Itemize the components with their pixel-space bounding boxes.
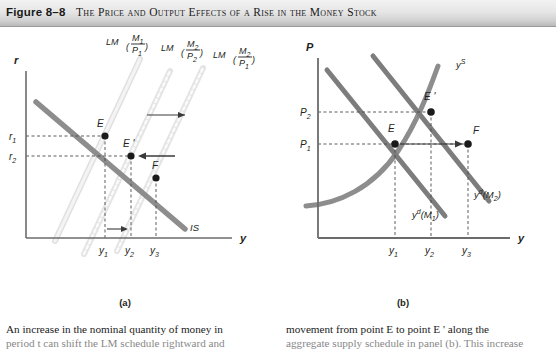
- point-E-prime: [427, 108, 435, 116]
- point-label-E: E: [388, 123, 395, 134]
- point-label-F: F: [152, 160, 159, 171]
- lm-curve-1-label: LM ( M1 P1 ): [106, 33, 148, 57]
- panel-a-caption: (a): [105, 297, 145, 308]
- panel-b-x-axis-label: y: [517, 232, 525, 244]
- output-expansion-arrow: [400, 141, 463, 148]
- panel-a-x-axis-label: y: [239, 232, 247, 244]
- panel-b-y-axis-label: P: [306, 41, 314, 53]
- svg-text:(: (: [126, 42, 130, 52]
- svg-text:P1: P1: [132, 45, 142, 57]
- svg-text:y3: y3: [149, 245, 159, 258]
- demand-curve-M2-label: yd(M2): [473, 188, 501, 202]
- is-curve-label: IS: [190, 222, 200, 233]
- panel-b-y-ticks: P2 P1: [300, 107, 311, 152]
- svg-text:): ): [144, 42, 148, 52]
- point-label-E: E: [97, 118, 104, 129]
- point-label-E-prime: E ': [424, 91, 436, 102]
- figure-title-bar: Figure 8–8 The Price and Output Effects …: [0, 0, 556, 27]
- svg-text:y2: y2: [424, 245, 434, 258]
- svg-text:P1: P1: [239, 58, 249, 70]
- panel-a-y-axis-label: r: [14, 54, 19, 66]
- svg-text:y1: y1: [388, 245, 398, 258]
- panel-a-chart: E E ' F r y r1 r2 y1 y2 y3 LM ( M1 P1 ) …: [0, 26, 278, 298]
- svg-text:P2: P2: [300, 107, 311, 120]
- point-F: [152, 174, 159, 181]
- svg-text:y2: y2: [124, 245, 134, 258]
- body-text-right-column: movement from point E to point E ' along…: [286, 322, 552, 350]
- lm-curve-3-label: LM ( M2 P1 ): [213, 46, 255, 70]
- svg-text:LM: LM: [213, 50, 226, 60]
- svg-text:y1: y1: [98, 245, 108, 258]
- panel-a-y-ticks: r1 r2: [9, 131, 16, 164]
- panel-a-x-ticks: y1 y2 y3: [98, 245, 159, 258]
- svg-text:): ): [251, 55, 255, 65]
- svg-text:M2: M2: [187, 39, 199, 51]
- body-line: An increase in the nominal quantity of m…: [6, 322, 268, 336]
- panel-b-x-ticks: y1 y2 y3: [388, 245, 471, 258]
- supply-curve-label: yS: [455, 58, 466, 70]
- body-line: period t can shift the LM schedule right…: [6, 336, 268, 350]
- lm-curve-2-label: LM ( M2 P2 ): [161, 39, 203, 63]
- svg-text:P2: P2: [187, 51, 197, 63]
- svg-text:LM: LM: [106, 37, 119, 47]
- svg-text:LM: LM: [161, 43, 174, 53]
- equilibrium-shift-arrow: [138, 153, 175, 160]
- point-E-prime: [127, 152, 134, 159]
- svg-text:M2: M2: [239, 46, 251, 58]
- panel-b-chart: E E ' F P y P2 P1 y1 y2 y3 yS yd(M1) yd(…: [278, 26, 556, 298]
- point-E: [391, 140, 399, 148]
- figure-title: The Price and Output Effects of a Rise i…: [76, 6, 377, 18]
- figure-number: Figure 8–8: [6, 6, 66, 18]
- svg-text:(: (: [233, 55, 237, 65]
- point-F: [464, 140, 472, 148]
- panel-b-caption: (b): [383, 297, 423, 308]
- body-line: movement from point E to point E ' along…: [286, 322, 552, 336]
- lm-curve-1: [55, 59, 140, 241]
- svg-text:(: (: [181, 48, 185, 58]
- point-label-F: F: [473, 125, 480, 136]
- point-label-E-prime: E ': [123, 138, 135, 149]
- body-text-left-column: An increase in the nominal quantity of m…: [6, 322, 268, 350]
- svg-text:y3: y3: [461, 245, 471, 258]
- body-line: aggregate supply schedule in panel (b). …: [286, 336, 552, 350]
- demand-curve-M1-label: yd(M1): [411, 208, 439, 222]
- svg-text:P1: P1: [300, 139, 311, 152]
- svg-text:r1: r1: [9, 131, 16, 144]
- svg-text:r2: r2: [9, 151, 16, 164]
- svg-text:): ): [199, 48, 203, 58]
- svg-text:M1: M1: [132, 33, 144, 45]
- point-E: [101, 132, 108, 139]
